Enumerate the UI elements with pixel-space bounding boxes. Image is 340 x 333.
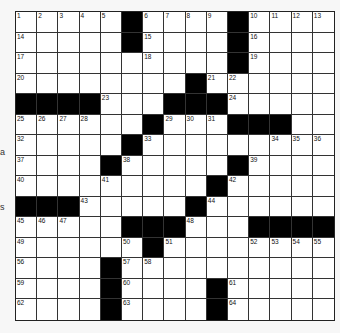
grid-cell[interactable]: 8 bbox=[186, 12, 207, 33]
grid-cell[interactable] bbox=[249, 258, 270, 279]
grid-cell[interactable]: 1 bbox=[16, 12, 37, 33]
grid-cell[interactable] bbox=[164, 33, 185, 54]
grid-cell[interactable]: 33 bbox=[143, 135, 164, 156]
grid-cell[interactable]: 50 bbox=[122, 238, 143, 259]
grid-cell[interactable]: 42 bbox=[228, 176, 249, 197]
grid-cell[interactable]: 34 bbox=[270, 135, 291, 156]
grid-cell[interactable]: 44 bbox=[207, 197, 228, 218]
grid-cell[interactable]: 4 bbox=[80, 12, 101, 33]
grid-cell[interactable] bbox=[101, 238, 122, 259]
grid-cell[interactable] bbox=[58, 135, 79, 156]
grid-cell[interactable] bbox=[186, 238, 207, 259]
grid-cell[interactable] bbox=[228, 258, 249, 279]
grid-cell[interactable] bbox=[313, 156, 334, 177]
grid-cell[interactable] bbox=[37, 33, 58, 54]
grid-cell[interactable]: 55 bbox=[313, 238, 334, 259]
grid-cell[interactable] bbox=[58, 53, 79, 74]
grid-cell[interactable] bbox=[313, 258, 334, 279]
grid-cell[interactable]: 49 bbox=[16, 238, 37, 259]
grid-cell[interactable]: 29 bbox=[164, 115, 185, 136]
grid-cell[interactable] bbox=[313, 74, 334, 95]
grid-cell[interactable] bbox=[270, 94, 291, 115]
grid-cell[interactable] bbox=[313, 115, 334, 136]
grid-cell[interactable] bbox=[207, 238, 228, 259]
grid-cell[interactable] bbox=[270, 197, 291, 218]
grid-cell[interactable] bbox=[80, 176, 101, 197]
grid-cell[interactable] bbox=[207, 217, 228, 238]
grid-cell[interactable]: 11 bbox=[270, 12, 291, 33]
grid-cell[interactable] bbox=[186, 135, 207, 156]
grid-cell[interactable] bbox=[101, 33, 122, 54]
grid-cell[interactable] bbox=[58, 279, 79, 300]
grid-cell[interactable] bbox=[292, 279, 313, 300]
grid-cell[interactable]: 36 bbox=[313, 135, 334, 156]
grid-cell[interactable] bbox=[80, 258, 101, 279]
grid-cell[interactable]: 39 bbox=[249, 156, 270, 177]
grid-cell[interactable]: 27 bbox=[58, 115, 79, 136]
grid-cell[interactable] bbox=[186, 53, 207, 74]
grid-cell[interactable] bbox=[58, 156, 79, 177]
grid-cell[interactable] bbox=[292, 299, 313, 320]
grid-cell[interactable]: 41 bbox=[101, 176, 122, 197]
grid-cell[interactable] bbox=[249, 279, 270, 300]
grid-cell[interactable] bbox=[249, 176, 270, 197]
grid-cell[interactable] bbox=[143, 156, 164, 177]
grid-cell[interactable]: 20 bbox=[16, 74, 37, 95]
grid-cell[interactable]: 59 bbox=[16, 279, 37, 300]
grid-cell[interactable] bbox=[186, 176, 207, 197]
grid-cell[interactable] bbox=[292, 53, 313, 74]
grid-cell[interactable] bbox=[313, 94, 334, 115]
grid-cell[interactable] bbox=[58, 238, 79, 259]
grid-cell[interactable]: 14 bbox=[16, 33, 37, 54]
grid-cell[interactable] bbox=[313, 197, 334, 218]
grid-cell[interactable]: 28 bbox=[80, 115, 101, 136]
grid-cell[interactable]: 51 bbox=[164, 238, 185, 259]
grid-cell[interactable]: 10 bbox=[249, 12, 270, 33]
grid-cell[interactable]: 23 bbox=[101, 94, 122, 115]
grid-cell[interactable] bbox=[207, 33, 228, 54]
grid-cell[interactable]: 38 bbox=[122, 156, 143, 177]
grid-cell[interactable] bbox=[164, 176, 185, 197]
grid-cell[interactable]: 62 bbox=[16, 299, 37, 320]
grid-cell[interactable] bbox=[80, 53, 101, 74]
grid-cell[interactable] bbox=[143, 176, 164, 197]
grid-cell[interactable] bbox=[122, 53, 143, 74]
grid-cell[interactable] bbox=[292, 197, 313, 218]
grid-cell[interactable] bbox=[186, 156, 207, 177]
grid-cell[interactable] bbox=[101, 135, 122, 156]
grid-cell[interactable] bbox=[292, 33, 313, 54]
grid-cell[interactable] bbox=[313, 53, 334, 74]
grid-cell[interactable] bbox=[292, 94, 313, 115]
grid-cell[interactable] bbox=[80, 217, 101, 238]
grid-cell[interactable] bbox=[270, 176, 291, 197]
grid-cell[interactable]: 57 bbox=[122, 258, 143, 279]
grid-cell[interactable] bbox=[228, 217, 249, 238]
grid-cell[interactable]: 25 bbox=[16, 115, 37, 136]
grid-cell[interactable] bbox=[58, 258, 79, 279]
grid-cell[interactable] bbox=[207, 258, 228, 279]
grid-cell[interactable]: 2 bbox=[37, 12, 58, 33]
grid-cell[interactable] bbox=[122, 94, 143, 115]
grid-cell[interactable] bbox=[122, 115, 143, 136]
grid-cell[interactable]: 37 bbox=[16, 156, 37, 177]
grid-cell[interactable]: 31 bbox=[207, 115, 228, 136]
grid-cell[interactable] bbox=[101, 53, 122, 74]
grid-cell[interactable] bbox=[249, 74, 270, 95]
grid-cell[interactable]: 64 bbox=[228, 299, 249, 320]
grid-cell[interactable] bbox=[313, 299, 334, 320]
grid-cell[interactable] bbox=[37, 279, 58, 300]
grid-cell[interactable] bbox=[143, 94, 164, 115]
grid-cell[interactable] bbox=[249, 197, 270, 218]
grid-cell[interactable] bbox=[164, 74, 185, 95]
grid-cell[interactable]: 56 bbox=[16, 258, 37, 279]
grid-cell[interactable]: 9 bbox=[207, 12, 228, 33]
grid-cell[interactable] bbox=[292, 115, 313, 136]
grid-cell[interactable] bbox=[143, 299, 164, 320]
grid-cell[interactable] bbox=[143, 279, 164, 300]
grid-cell[interactable] bbox=[37, 74, 58, 95]
grid-cell[interactable] bbox=[58, 74, 79, 95]
grid-cell[interactable]: 5 bbox=[101, 12, 122, 33]
grid-cell[interactable] bbox=[313, 33, 334, 54]
grid-cell[interactable] bbox=[37, 238, 58, 259]
grid-cell[interactable] bbox=[101, 115, 122, 136]
